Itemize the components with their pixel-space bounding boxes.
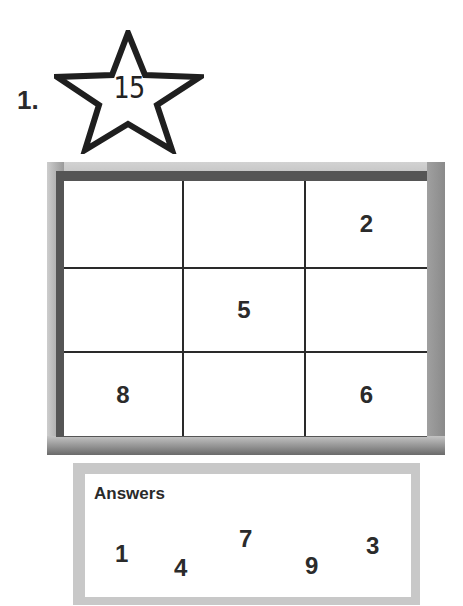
answer-option[interactable]: 9	[305, 552, 318, 580]
grid-cell[interactable]	[306, 269, 427, 353]
grid-cell[interactable]	[184, 353, 306, 436]
answer-option[interactable]: 1	[115, 540, 128, 568]
answer-option[interactable]: 3	[366, 532, 379, 560]
grid-cell: 8	[64, 353, 184, 436]
star-icon: 15	[54, 30, 204, 154]
answers-title: Answers	[94, 484, 165, 504]
grid-cell[interactable]	[64, 181, 184, 269]
answer-option[interactable]: 7	[239, 525, 252, 553]
grid-cell: 5	[184, 269, 306, 353]
answers-box: Answers 1 4 7 9 3	[73, 463, 420, 605]
grid-cell[interactable]	[184, 181, 306, 269]
target-sum: 15	[65, 70, 193, 105]
grid-cell: 2	[306, 181, 427, 269]
grid-cell: 6	[306, 353, 427, 436]
grid-cell[interactable]	[64, 269, 184, 353]
magic-square-grid: 2 5 8 6	[64, 181, 427, 436]
answer-option[interactable]: 4	[174, 554, 187, 582]
problem-number: 1.	[17, 85, 39, 116]
